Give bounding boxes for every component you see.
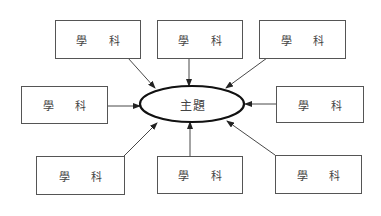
node-label: 學 科 <box>169 167 231 183</box>
node-top-center: 學 科 <box>157 20 243 59</box>
node-top-right: 學 科 <box>259 20 346 59</box>
arrow-top-right <box>226 58 267 88</box>
node-middle-right: 學 科 <box>276 86 364 123</box>
node-label: 學 科 <box>67 32 129 48</box>
node-label: 學 科 <box>272 32 334 48</box>
node-label: 學 科 <box>289 97 351 113</box>
node-top-left: 學 科 <box>55 20 141 59</box>
center-topic-label: 主題 <box>140 86 245 122</box>
node-bottom-left: 學 科 <box>36 156 125 195</box>
arrow-bottom-left <box>124 123 157 156</box>
node-label: 學 科 <box>50 168 112 184</box>
node-label: 學 科 <box>34 97 96 113</box>
node-label: 學 科 <box>288 167 350 183</box>
arrow-bottom-right <box>227 121 275 155</box>
arrow-top-left <box>128 58 155 88</box>
node-bottom-center: 學 科 <box>157 156 243 194</box>
node-bottom-right: 學 科 <box>275 155 362 194</box>
node-label: 學 科 <box>169 32 231 48</box>
node-middle-left: 學 科 <box>21 86 108 124</box>
